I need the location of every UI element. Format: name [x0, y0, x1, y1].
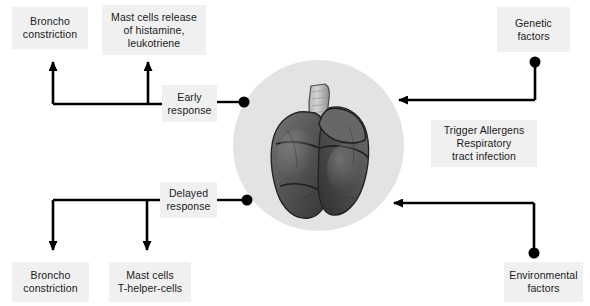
box-mast-cells-release: Mast cells release of histamine, leukotr…: [102, 5, 206, 55]
box-broncho-constriction-delayed: Broncho constriction: [12, 262, 89, 302]
environmental-factors-connector-dot: [529, 248, 540, 259]
box-broncho-constriction-early-label: Broncho constriction: [23, 15, 77, 41]
box-environmental-factors-label: Environmental factors: [509, 269, 577, 295]
asthma-pathophysiology-diagram: Broncho constriction Mast cells release …: [0, 0, 590, 306]
box-genetic-factors-label: Genetic factors: [515, 17, 552, 43]
box-mast-cells-release-label: Mast cells release of histamine, leukotr…: [111, 11, 197, 50]
genetic-factors-connector-dot: [530, 57, 541, 68]
box-mast-cells-t-helper: Mast cells T-helper-cells: [109, 262, 191, 302]
central-lung-circle: [233, 60, 404, 231]
box-broncho-constriction-delayed-label: Broncho constriction: [23, 269, 77, 295]
box-trigger-allergens: Trigger Allergens Respiratory tract infe…: [431, 120, 537, 167]
box-early-response: Early response: [162, 85, 217, 122]
box-trigger-allergens-label: Trigger Allergens Respiratory tract infe…: [444, 124, 525, 163]
box-broncho-constriction-early: Broncho constriction: [12, 7, 88, 49]
lung-specimen-photograph: [263, 82, 375, 224]
box-genetic-factors: Genetic factors: [497, 7, 570, 52]
box-delayed-response-label: Delayed response: [167, 187, 211, 213]
box-environmental-factors: Environmental factors: [504, 262, 583, 302]
box-delayed-response: Delayed response: [160, 182, 217, 218]
box-early-response-label: Early response: [168, 91, 212, 117]
box-mast-cells-t-helper-label: Mast cells T-helper-cells: [118, 269, 182, 295]
